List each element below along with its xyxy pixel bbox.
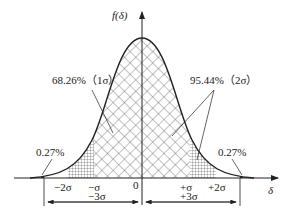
tick-plus-two-sigma: +2σ (208, 181, 226, 193)
left-tail-leader (42, 159, 52, 175)
right-two-sigma-region (190, 30, 216, 178)
one-sigma-label: 68.26%（1σ） (52, 74, 119, 86)
right-tail-label: 0.27% (218, 146, 246, 158)
right-tail-leader (232, 159, 242, 175)
minus-three-sigma-label: −3σ (88, 190, 106, 202)
normal-distribution-diagram: f(δ) δ 68.26%（1σ） 95.44%（2σ） 0.27% 0.27%… (0, 0, 289, 218)
left-two-sigma-region (68, 30, 94, 178)
tick-minus-two-sigma: −2σ (54, 181, 72, 193)
two-sigma-label: 95.44%（2σ） (190, 74, 257, 86)
x-axis-label: δ (268, 184, 274, 196)
tick-zero: 0 (133, 179, 139, 191)
plus-three-sigma-label: +3σ (180, 190, 198, 202)
two-sigma-leader-2 (197, 90, 214, 160)
y-axis-label: f(δ) (112, 9, 128, 22)
left-tail-label: 0.27% (36, 146, 64, 158)
